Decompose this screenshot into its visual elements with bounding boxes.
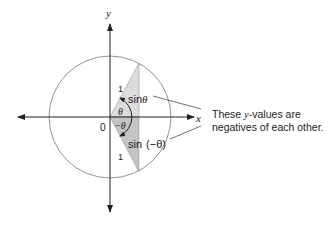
sin-neg-theta-label: sin(−θ) [128,138,166,150]
theta-angle-label: θ [118,106,123,117]
upper-hypotenuse-label: 1 [118,84,123,94]
x-axis-label: x [195,112,201,124]
y-axis-label: y [105,7,111,19]
neg-theta-angle-label: −θ [114,120,126,131]
leader-line-upper [153,96,201,109]
origin-label: 0 [100,122,106,133]
annotation-line-1: These y-values are [212,108,301,120]
upper-triangle [110,63,139,117]
annotation-line-2: negatives of each other. [212,121,324,133]
leader-line-lower [170,126,201,139]
sin-theta-label: sinθ [128,93,148,105]
lower-hypotenuse-label: 1 [118,152,123,162]
unit-circle-diagram: y x 0 1 1 θ −θ sinθ sin(−θ) These y-valu… [0,0,333,225]
